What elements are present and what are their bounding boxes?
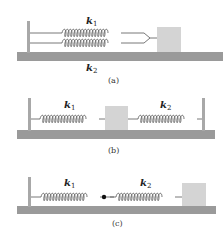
label-k2: k2 xyxy=(140,177,151,190)
block xyxy=(157,27,181,52)
wall xyxy=(28,177,31,207)
junction-dot xyxy=(102,195,106,199)
floor xyxy=(17,206,216,214)
caption-a: (a) xyxy=(108,76,119,85)
floor xyxy=(17,52,223,61)
panel-c: k1 k2 (c) xyxy=(17,177,216,228)
right-wall xyxy=(202,98,205,131)
spring-k1 xyxy=(30,29,144,37)
label-k2: k2 xyxy=(86,62,97,75)
spring-k2 xyxy=(110,193,182,201)
spring-k1 xyxy=(31,115,105,123)
label-k1: k1 xyxy=(64,99,75,112)
floor xyxy=(17,130,215,139)
caption-c: (c) xyxy=(112,219,123,228)
panel-a: k1 k2 (a) xyxy=(17,15,223,85)
left-wall xyxy=(28,98,31,131)
spring-k2 xyxy=(128,115,202,123)
caption-b: (b) xyxy=(108,146,119,155)
spring-k1 xyxy=(31,193,114,201)
spring-k2 xyxy=(30,39,144,47)
block xyxy=(182,183,206,206)
panel-b: k1 k2 (b) xyxy=(17,98,215,155)
spring-diagram: k1 k2 (a) k1 k2 (b) xyxy=(0,0,224,235)
label-k2: k2 xyxy=(160,99,171,112)
label-k1: k1 xyxy=(86,15,97,28)
wall xyxy=(27,21,30,53)
connector-bracket xyxy=(144,33,157,43)
block xyxy=(105,106,128,130)
label-k1: k1 xyxy=(64,177,75,190)
